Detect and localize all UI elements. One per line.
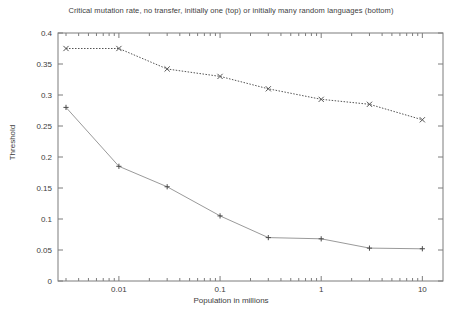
data-point-1 (266, 235, 271, 240)
data-point-1 (420, 246, 425, 251)
series-line-1 (66, 107, 422, 248)
chart-container: Critical mutation rate, no transfer, ini… (0, 0, 462, 319)
data-point-1 (319, 236, 324, 241)
series-line-0 (66, 49, 422, 120)
data-point-1 (367, 246, 372, 251)
plot-frame (58, 33, 443, 281)
data-point-0 (420, 117, 425, 122)
data-point-1 (217, 213, 222, 218)
data-point-1 (165, 184, 170, 189)
data-point-0 (63, 46, 68, 51)
data-point-0 (165, 66, 170, 71)
plot-area (0, 0, 462, 319)
